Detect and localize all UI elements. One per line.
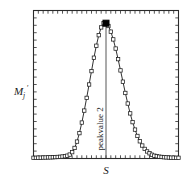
gaussian-peak-chart: peakvalue 2 M j ′ S — [0, 0, 188, 180]
peak-marker — [103, 20, 109, 26]
y-axis-label: M j ′ — [13, 84, 29, 100]
y-axis-label-subscript: j — [22, 91, 25, 100]
x-axis-label: S — [103, 164, 109, 176]
y-axis-label-prime: ′ — [27, 84, 29, 93]
chart-figure: peakvalue 2 M j ′ S — [0, 0, 188, 180]
peak-annotation-label: peakvalue 2 — [95, 107, 105, 150]
